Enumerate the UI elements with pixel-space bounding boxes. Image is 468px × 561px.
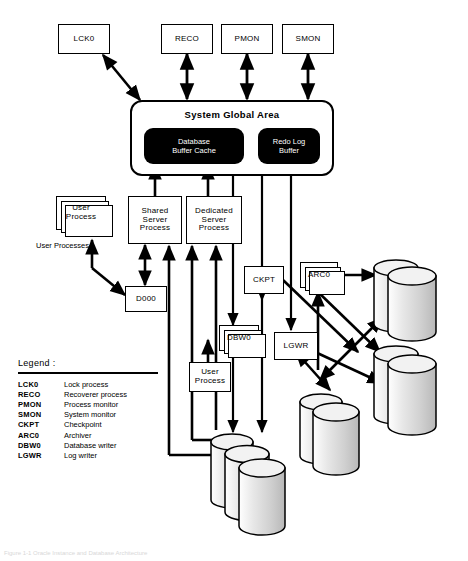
dedicated-server-line3: Process xyxy=(195,224,233,233)
process-label-smon: SMON xyxy=(295,35,322,44)
legend: Legend : LCK0 Lock process RECO Recovere… xyxy=(18,358,166,461)
process-label-lck0: LCK0 xyxy=(73,35,96,44)
legend-abbr: PMON xyxy=(18,399,58,409)
legend-row: LGWR Log writer xyxy=(18,450,127,460)
legend-desc: Checkpoint xyxy=(58,420,127,430)
process-label-reco: RECO xyxy=(174,35,200,44)
legend-desc: Log writer xyxy=(58,450,127,460)
legend-desc: Archiver xyxy=(58,430,127,440)
arc0-label: ARC0 xyxy=(307,271,331,280)
legend-table: LCK0 Lock process RECO Recoverer process… xyxy=(18,379,127,461)
checkpoint-process-ckpt[interactable]: CKPT xyxy=(244,266,284,294)
legend-desc: Database writer xyxy=(58,440,127,450)
legend-desc: Process monitor xyxy=(58,399,127,409)
legend-desc: System monitor xyxy=(58,410,127,420)
legend-row: PMON Process monitor xyxy=(18,399,127,409)
shared-server-process[interactable]: Shared Server Process xyxy=(128,196,182,244)
dedicated-server-process[interactable]: Dedicated Server Process xyxy=(186,196,242,244)
legend-row: CKPT Checkpoint xyxy=(18,420,127,430)
figure-caption: Figure 1-1 Oracle Instance and Database … xyxy=(4,550,147,556)
user-processes-caption: User Processes xyxy=(36,241,89,250)
legend-row: RECO Recoverer process xyxy=(18,389,127,399)
log-writer-lgwr[interactable]: LGWR xyxy=(274,332,318,360)
legend-row: DBW0 Database writer xyxy=(18,440,127,450)
process-box-reco[interactable]: RECO xyxy=(161,24,213,54)
legend-abbr: ARC0 xyxy=(18,430,58,440)
process-box-lck0[interactable]: LCK0 xyxy=(58,24,110,54)
datafiles[interactable] xyxy=(205,426,315,546)
shared-server-line3: Process xyxy=(140,224,170,233)
redo-log-buffer-line1: Redo Log xyxy=(273,137,306,146)
dispatcher-label: D000 xyxy=(135,295,157,304)
legend-row: ARC0 Archiver xyxy=(18,430,127,440)
legend-abbr: RECO xyxy=(18,389,58,399)
sga-title: System Global Area xyxy=(132,109,332,120)
archiver-process-arc0[interactable]: ARC0 xyxy=(300,262,338,288)
legend-row: LCK0 Lock process xyxy=(18,379,127,389)
legend-abbr: SMON xyxy=(18,410,58,420)
user-processes-stack[interactable]: User Process xyxy=(56,196,106,230)
process-box-pmon[interactable]: PMON xyxy=(221,24,273,54)
offline-storage-device[interactable] xyxy=(368,250,460,346)
database-buffer-cache-line1: Database xyxy=(172,137,216,146)
redo-log-buffer: Redo Log Buffer xyxy=(258,128,320,164)
user-process-single[interactable]: User Process xyxy=(189,362,231,392)
process-label-pmon: PMON xyxy=(234,35,261,44)
dbw0-label: DBW0 xyxy=(226,334,252,343)
legend-row: SMON System monitor xyxy=(18,410,127,420)
database-buffer-cache: Database Buffer Cache xyxy=(144,128,244,164)
redo-log-buffer-line2: Buffer xyxy=(273,146,306,155)
user-processes-stack-line2: Process xyxy=(66,213,96,222)
system-global-area: System Global Area Database Buffer Cache… xyxy=(130,100,334,176)
legend-desc: Recoverer process xyxy=(58,389,127,399)
dispatcher-process-d000[interactable]: D000 xyxy=(125,286,167,312)
legend-abbr: LCK0 xyxy=(18,379,58,389)
database-buffer-cache-line2: Buffer Cache xyxy=(172,146,216,155)
lgwr-label: LGWR xyxy=(283,342,310,351)
legend-abbr: DBW0 xyxy=(18,440,58,450)
legend-abbr: CKPT xyxy=(18,420,58,430)
user-process-single-line2: Process xyxy=(195,377,225,386)
database-writer-dbw0[interactable]: DBW0 xyxy=(219,325,259,351)
legend-divider xyxy=(18,372,158,374)
diagram-canvas: LCK0 RECO PMON SMON System Global Area D… xyxy=(0,0,468,561)
legend-desc: Lock process xyxy=(58,379,127,389)
process-box-smon[interactable]: SMON xyxy=(282,24,334,54)
ckpt-label: CKPT xyxy=(252,276,276,285)
legend-abbr: LGWR xyxy=(18,450,58,460)
legend-title: Legend : xyxy=(18,358,166,368)
